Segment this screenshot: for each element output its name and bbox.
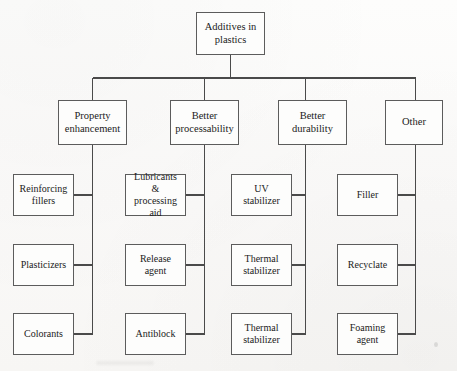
node-leaf-filler[interactable]: Filler	[337, 174, 398, 216]
node-root-label: Additives in plastics	[202, 21, 260, 46]
node-branch-better-durability-label: Better durability	[289, 110, 336, 135]
node-leaf-release-agent-label: Release agent	[137, 253, 174, 277]
node-leaf-filler-label: Filler	[354, 189, 382, 201]
node-leaf-thermal-stabilizer-2-label: Thermal stabilizer	[240, 322, 283, 346]
node-branch-other-label: Other	[399, 116, 429, 128]
node-leaf-reinforcing-fillers[interactable]: Reinforcing fillers	[13, 174, 74, 216]
node-branch-better-processability-label: Better processability	[172, 110, 236, 135]
node-branch-property-enhancement[interactable]: Property enhancement	[58, 100, 127, 145]
additives-hierarchy-diagram: Additives in plastics Property enhanceme…	[0, 0, 457, 371]
node-leaf-foaming-agent-label: Foaming agent	[347, 322, 389, 346]
node-leaf-antiblock[interactable]: Antiblock	[125, 313, 186, 355]
node-leaf-recyclate-label: Recyclate	[345, 259, 390, 271]
node-leaf-foaming-agent[interactable]: Foaming agent	[337, 313, 398, 355]
node-leaf-thermal-stabilizer-2[interactable]: Thermal stabilizer	[231, 313, 292, 355]
node-leaf-thermal-stabilizer-1-label: Thermal stabilizer	[240, 253, 283, 277]
node-leaf-thermal-stabilizer-1[interactable]: Thermal stabilizer	[231, 244, 292, 286]
node-leaf-uv-stabilizer-label: UV stabilizer	[232, 183, 291, 207]
node-leaf-recyclate[interactable]: Recyclate	[337, 244, 398, 286]
node-leaf-uv-stabilizer[interactable]: UV stabilizer	[231, 174, 292, 216]
node-branch-better-durability[interactable]: Better durability	[278, 100, 347, 145]
node-leaf-plasticizers[interactable]: Plasticizers	[13, 244, 74, 286]
node-leaf-release-agent[interactable]: Release agent	[125, 244, 186, 286]
node-leaf-lubricants-processing-aid[interactable]: Lubricants & processing aid	[125, 174, 186, 216]
node-leaf-colorants[interactable]: Colorants	[13, 313, 74, 355]
node-leaf-lubricants-processing-aid-label: Lubricants & processing aid	[126, 171, 185, 218]
node-leaf-plasticizers-label: Plasticizers	[18, 259, 70, 271]
node-leaf-antiblock-label: Antiblock	[133, 328, 179, 340]
node-root-additives-in-plastics[interactable]: Additives in plastics	[196, 12, 265, 55]
node-branch-better-processability[interactable]: Better processability	[170, 100, 239, 145]
node-leaf-reinforcing-fillers-label: Reinforcing fillers	[17, 183, 71, 207]
node-branch-property-enhancement-label: Property enhancement	[62, 110, 123, 135]
node-leaf-colorants-label: Colorants	[21, 328, 66, 340]
node-branch-other[interactable]: Other	[385, 100, 443, 145]
